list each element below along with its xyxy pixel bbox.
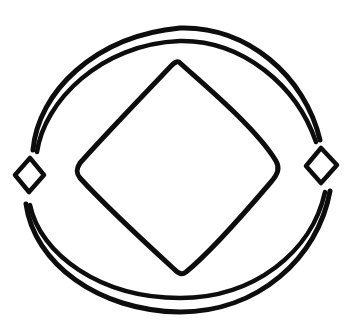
sketch-figure: [0, 0, 358, 334]
drawing-canvas: [0, 0, 358, 334]
